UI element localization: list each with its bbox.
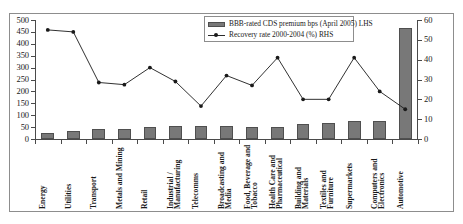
x-axis-category-labels: EnergyUtilitiesTransportMetals and Minin…: [35, 143, 418, 209]
x-axis-category-label: Industrial / Manufacturing: [167, 143, 180, 209]
right-axis-tick: [418, 119, 422, 120]
line-data-point: [148, 66, 152, 70]
x-axis-line: [35, 139, 418, 140]
line-data-point: [276, 56, 280, 60]
right-axis-tick: [418, 60, 422, 61]
line-data-point: [174, 80, 178, 84]
right-axis-tick-label: 40: [424, 55, 448, 64]
legend-label-bar: BBB-rated CDS premium bps (April 2005) L…: [229, 20, 373, 28]
x-axis-category-label: Utilities: [65, 143, 78, 209]
line-data-point: [71, 30, 75, 34]
line-data-point: [122, 83, 126, 87]
right-axis-tick: [418, 20, 422, 21]
line-data-point: [97, 81, 101, 85]
line-data-point: [378, 90, 382, 94]
x-axis-category-label: Automotive: [397, 143, 410, 209]
right-axis-tick: [418, 40, 422, 41]
left-axis-tick-label: 100: [3, 111, 29, 120]
right-axis-tick-label: 30: [424, 75, 448, 84]
x-axis-category-label: Health Care and Pharmaceutical: [269, 143, 282, 209]
left-axis-tick-label: 150: [3, 99, 29, 108]
left-axis-tick-label: 50: [3, 123, 29, 132]
line-data-point: [327, 97, 331, 101]
x-axis-category-label: Food, Beverage and Tobacco: [244, 143, 257, 209]
line-data-point: [225, 74, 229, 78]
legend-entry-line: Recovery rate 2000-2004 (%) RHS: [208, 30, 350, 40]
legend-label-line: Recovery rate 2000-2004 (%) RHS: [229, 31, 333, 39]
x-axis-category-label: Supermarkets: [346, 143, 359, 209]
x-axis-category-label: Transport: [90, 143, 103, 209]
x-axis-category-label: Telecomms: [192, 143, 205, 209]
left-axis-tick-label: 450: [3, 27, 29, 36]
left-axis-tick-label: 500: [3, 16, 29, 25]
x-axis-category-label: Retail: [141, 143, 154, 209]
right-axis-tick-label: 50: [424, 35, 448, 44]
right-axis-tick: [418, 99, 422, 100]
x-axis-tick: [418, 140, 419, 144]
right-axis-tick-label: 60: [424, 16, 448, 25]
x-axis-category-label: Computers and Electronics: [371, 143, 384, 209]
x-axis-category-label: Metals and Mining: [116, 143, 129, 209]
chart-figure: 050100150200250300350400450500 010203040…: [0, 0, 463, 224]
left-axis-tick-label: 350: [3, 51, 29, 60]
x-axis-category-label: Broadcasting and Media: [218, 143, 231, 209]
line-data-point: [46, 28, 50, 32]
left-axis-tick-label: 300: [3, 63, 29, 72]
right-axis-tick-label: 10: [424, 115, 448, 124]
left-axis-tick-label: 250: [3, 75, 29, 84]
chart-legend: BBB-rated CDS premium bps (April 2005) L…: [204, 16, 354, 42]
x-axis-category-label: Building and Materials: [295, 143, 308, 209]
left-axis-tick-label: 0: [3, 135, 29, 144]
line-data-point: [301, 97, 305, 101]
line-data-point: [352, 56, 356, 60]
right-axis-tick-label: 0: [424, 135, 448, 144]
left-axis-tick-label: 400: [3, 39, 29, 48]
x-axis-category-label: Textiles and Furniture: [320, 143, 333, 209]
right-axis-tick-label: 20: [424, 95, 448, 104]
line-marker-swatch-icon: [208, 32, 225, 39]
right-axis-tick: [418, 80, 422, 81]
left-axis-tick-label: 200: [3, 87, 29, 96]
legend-entry-bar: BBB-rated CDS premium bps (April 2005) L…: [208, 19, 350, 29]
line-data-point: [199, 104, 203, 108]
line-data-point: [250, 84, 254, 88]
line-data-point: [403, 107, 407, 111]
x-axis-category-label: Energy: [39, 143, 52, 209]
bar-swatch-icon: [208, 22, 225, 27]
